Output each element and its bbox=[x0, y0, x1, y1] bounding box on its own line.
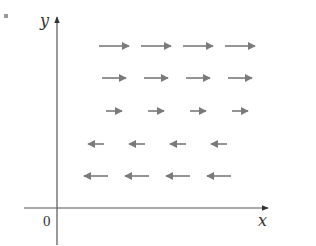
origin-label: 0 bbox=[43, 213, 51, 229]
y-axis-label: y bbox=[39, 11, 50, 30]
vector-arrows bbox=[84, 46, 255, 176]
x-axis-label: x bbox=[258, 211, 267, 230]
vector-field-diagram: y x 0 bbox=[0, 0, 316, 246]
